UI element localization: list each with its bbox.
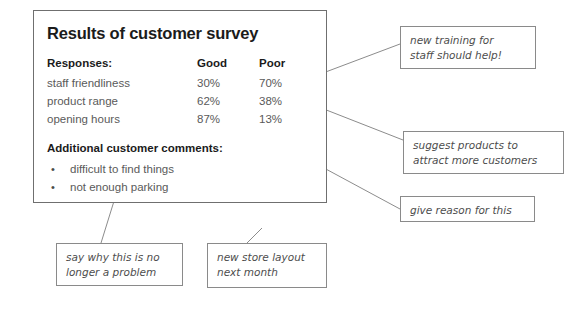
- annotation-line: attract more customers: [413, 153, 554, 168]
- annotation-line: new training for: [410, 33, 526, 48]
- table-row: opening hours 87% 13%: [47, 110, 315, 128]
- table-row: staff friendliness 30% 70%: [47, 74, 315, 92]
- annotation-line: suggest products to: [413, 138, 554, 153]
- annotation-line: next month: [217, 265, 317, 280]
- annotation-reason: give reason for this: [400, 196, 535, 222]
- annotation-line: new store layout: [217, 250, 317, 265]
- survey-annotation-diagram: Results of customer survey Responses: Go…: [0, 0, 586, 315]
- annotation-problem: say why this is no longer a problem: [56, 243, 183, 286]
- annotation-line: say why this is no: [66, 250, 173, 265]
- annotation-line: staff should help!: [410, 48, 526, 63]
- connector-to-layout: [247, 228, 262, 243]
- bullet-icon: •: [51, 178, 55, 196]
- row-label: staff friendliness: [47, 74, 197, 92]
- annotation-layout: new store layout next month: [207, 243, 327, 288]
- survey-results-panel: Results of customer survey Responses: Go…: [33, 10, 327, 203]
- list-item: • not enough parking: [47, 178, 174, 196]
- column-header-poor: Poor: [259, 54, 315, 74]
- row-poor-value: 38%: [259, 92, 315, 110]
- row-good-value: 30%: [197, 74, 259, 92]
- row-good-value: 62%: [197, 92, 259, 110]
- row-label: opening hours: [47, 110, 197, 128]
- column-header-responses: Responses:: [47, 54, 197, 74]
- row-poor-value: 13%: [259, 110, 315, 128]
- bullet-icon: •: [51, 160, 55, 178]
- table-header-row: Responses: Good Poor: [47, 54, 315, 74]
- annotation-line: longer a problem: [66, 265, 173, 280]
- row-good-value: 87%: [197, 110, 259, 128]
- row-poor-value: 70%: [259, 74, 315, 92]
- customer-comments-list: • difficult to find things • not enough …: [47, 160, 174, 196]
- page-title: Results of customer survey: [47, 24, 258, 43]
- connector-to-training: [315, 44, 400, 76]
- table-row: product range 62% 38%: [47, 92, 315, 110]
- list-item-label: not enough parking: [70, 181, 168, 193]
- survey-results-table: Responses: Good Poor staff friendliness …: [47, 54, 315, 128]
- comments-heading: Additional customer comments:: [47, 142, 223, 154]
- row-label: product range: [47, 92, 197, 110]
- annotation-line: give reason for this: [410, 203, 525, 218]
- list-item-label: difficult to find things: [70, 163, 174, 175]
- list-item: • difficult to find things: [47, 160, 174, 178]
- annotation-training: new training for staff should help!: [400, 26, 536, 69]
- annotation-products: suggest products to attract more custome…: [403, 131, 564, 174]
- column-header-good: Good: [197, 54, 259, 74]
